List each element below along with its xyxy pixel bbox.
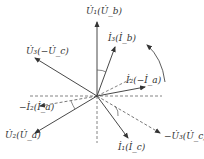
- label-I2: İ₂(−İ_a): [126, 75, 161, 85]
- phasor-U3: [35, 58, 97, 96]
- label-negI2: −İ₂(İ_a): [19, 102, 54, 112]
- label-negU3: −U̇₃(U̇_c): [164, 131, 204, 141]
- phasor-negU3: [97, 96, 160, 133]
- label-U1: U̇₁(U̇_b): [86, 6, 122, 16]
- label-I3: İ₃(İ_b): [108, 33, 136, 43]
- label-I1: İ₁(İ_c): [118, 142, 145, 152]
- phasor-I2: [97, 87, 145, 96]
- label-U2: U̇₂(U̇_a): [5, 130, 41, 140]
- label-U3: U̇₃(−U̇_c): [26, 46, 69, 56]
- phasor-I1: [97, 96, 128, 138]
